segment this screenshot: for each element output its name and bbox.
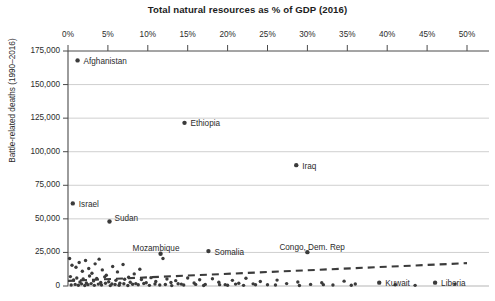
data-point xyxy=(322,283,325,286)
data-point xyxy=(107,280,110,283)
data-point xyxy=(174,279,177,282)
data-point xyxy=(170,284,173,287)
point-label: Somalia xyxy=(214,248,244,257)
data-point xyxy=(81,270,84,273)
data-point xyxy=(89,282,92,285)
data-point xyxy=(77,261,80,264)
point-label: Israel xyxy=(79,200,99,209)
data-point xyxy=(127,276,130,279)
data-point xyxy=(234,282,237,285)
data-point xyxy=(342,279,345,282)
data-point xyxy=(331,283,334,286)
data-point xyxy=(131,283,134,286)
data-point xyxy=(111,265,114,268)
point-label: Afghanistan xyxy=(84,57,127,66)
data-point xyxy=(114,279,117,282)
data-point xyxy=(259,280,262,283)
data-point xyxy=(296,280,299,283)
data-point xyxy=(123,278,126,281)
data-point xyxy=(142,282,145,285)
data-point xyxy=(126,284,129,287)
point-label: Ethiopia xyxy=(191,119,221,128)
data-point xyxy=(274,283,277,286)
data-point xyxy=(140,278,143,281)
data-point xyxy=(93,262,96,265)
data-point xyxy=(309,283,312,286)
data-point xyxy=(88,274,91,277)
data-point xyxy=(73,283,76,286)
data-point xyxy=(164,283,167,286)
data-point xyxy=(354,282,357,285)
data-point xyxy=(69,283,72,286)
data-point xyxy=(266,283,269,286)
data-point xyxy=(93,284,96,287)
data-point xyxy=(68,257,71,260)
point-label: Kuwait xyxy=(385,279,410,288)
data-point xyxy=(84,259,87,262)
data-point xyxy=(69,275,72,278)
data-point xyxy=(176,282,179,285)
data-point xyxy=(182,283,185,286)
data-point xyxy=(198,278,201,281)
data-point xyxy=(158,283,161,286)
plot-area xyxy=(0,0,495,301)
data-point xyxy=(242,284,245,287)
data-point-labeled xyxy=(294,163,298,167)
data-point xyxy=(92,279,95,282)
data-point xyxy=(169,281,172,284)
data-point xyxy=(218,283,221,286)
data-point xyxy=(77,283,80,286)
data-point xyxy=(275,278,278,281)
data-point-labeled xyxy=(75,58,79,62)
data-point xyxy=(70,263,73,266)
data-point xyxy=(86,283,89,286)
data-point-labeled xyxy=(71,201,75,205)
data-point xyxy=(153,282,156,285)
data-point xyxy=(231,279,234,282)
data-point-labeled xyxy=(433,280,437,284)
data-point xyxy=(226,283,229,286)
data-point-labeled xyxy=(107,219,111,223)
data-point xyxy=(101,268,104,271)
data-point xyxy=(211,277,214,280)
point-label: Congo, Dem. Rep xyxy=(279,243,345,252)
data-point-labeled xyxy=(182,121,186,125)
data-point xyxy=(116,270,119,273)
data-point xyxy=(202,284,205,287)
data-point xyxy=(72,278,75,281)
data-point xyxy=(254,283,257,286)
point-label: Liberia xyxy=(441,279,466,288)
data-point xyxy=(133,272,136,275)
data-point xyxy=(122,282,125,285)
data-point xyxy=(161,257,164,260)
data-point xyxy=(104,282,107,285)
data-point xyxy=(75,276,78,279)
data-point xyxy=(74,266,77,269)
data-point xyxy=(413,284,416,287)
data-point xyxy=(81,277,84,280)
data-point xyxy=(194,283,197,286)
data-point xyxy=(237,282,240,285)
data-point xyxy=(113,283,116,286)
data-point xyxy=(138,268,141,271)
data-point xyxy=(83,284,86,287)
point-label: Sudan xyxy=(114,214,138,223)
data-point xyxy=(80,282,83,285)
data-point xyxy=(244,277,247,280)
data-point xyxy=(186,276,189,279)
data-point xyxy=(100,283,103,286)
data-point xyxy=(90,272,93,275)
data-point-labeled xyxy=(377,280,381,284)
data-point xyxy=(350,283,353,286)
data-point xyxy=(109,284,112,287)
scatter-chart: Total natural resources as % of GDP (201… xyxy=(0,0,495,301)
data-point xyxy=(137,283,140,286)
data-point-labeled xyxy=(206,249,210,253)
data-point xyxy=(298,284,301,287)
data-point xyxy=(97,282,100,285)
data-point xyxy=(148,284,151,287)
data-point xyxy=(87,267,90,270)
point-label: Iraq xyxy=(302,162,316,171)
data-point xyxy=(95,277,98,280)
data-point xyxy=(165,277,168,280)
